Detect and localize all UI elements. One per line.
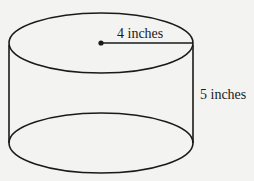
- cylinder-diagram: 4 inches 5 inches: [0, 0, 254, 181]
- cylinder-bottom-base: [9, 113, 193, 173]
- height-label: 5 inches: [200, 87, 246, 102]
- radius-label: 4 inches: [117, 26, 163, 41]
- center-point: [98, 40, 103, 45]
